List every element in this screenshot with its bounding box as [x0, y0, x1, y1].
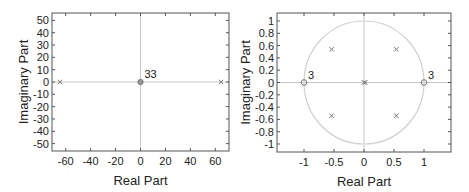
x-tick-label: 40: [184, 155, 196, 167]
y-tick-label: 0.8: [259, 27, 274, 39]
y-tick-label: 0: [43, 76, 49, 88]
y-tick-label: -50: [33, 138, 49, 150]
y-tick-label: 40: [37, 27, 49, 39]
y-tick-label: 0: [268, 77, 274, 89]
x-tick-label: -60: [58, 155, 74, 167]
y-tick-label: -1: [264, 138, 274, 150]
x-tick-label: -40: [83, 155, 99, 167]
multiplicity-label: 3: [428, 69, 434, 81]
x-tick-label: 20: [159, 155, 171, 167]
y-tick-label: 50: [37, 14, 49, 26]
y-tick-label: -0.8: [255, 126, 274, 138]
y-tick-label: 20: [37, 51, 49, 63]
x-tick-label: -0.5: [325, 156, 344, 168]
x-tick-label: -1: [299, 156, 309, 168]
right-plot: -1-0.500.5110.80.60.40.20-0.2-0.4-0.6-0.…: [238, 13, 451, 189]
y-tick-label: -10: [33, 88, 49, 100]
y-tick-label: -30: [33, 113, 49, 125]
x-tick-label: 0.5: [386, 156, 401, 168]
y-tick-label: -0.4: [255, 101, 274, 113]
y-tick-label: -0.2: [255, 89, 274, 101]
y-tick-label: 10: [37, 64, 49, 76]
zero-marker-icon: [138, 79, 143, 84]
pole-zero-figure: -60-40-20020406050403020100-10-20-30-40-…: [0, 0, 469, 192]
x-tick-label: 1: [421, 156, 427, 168]
x-tick-label: 0: [361, 156, 367, 168]
x-axis-label: Real Part: [113, 173, 168, 188]
multiplicity-label: 3: [308, 69, 314, 81]
y-tick-label: 0.6: [259, 40, 274, 52]
y-tick-label: -0.6: [255, 113, 274, 125]
pole-marker-icon: [394, 47, 398, 51]
x-tick-label: 60: [209, 155, 221, 167]
x-axis-label: Real Part: [337, 174, 392, 189]
y-axis-label: Imaginary Part: [16, 39, 31, 124]
pole-marker-icon: [329, 47, 333, 51]
y-tick-label: 1: [268, 15, 274, 27]
y-tick-label: -20: [33, 101, 49, 113]
pole-marker-icon: [329, 114, 333, 118]
x-tick-label: -20: [108, 155, 124, 167]
left-plot: -60-40-20020406050403020100-10-20-30-40-…: [16, 13, 229, 188]
y-tick-label: 30: [37, 39, 49, 51]
multiplicity-label: 33: [145, 68, 157, 80]
y-tick-label: 0.2: [259, 64, 274, 76]
y-tick-label: 0.4: [259, 52, 274, 64]
y-tick-label: -40: [33, 125, 49, 137]
x-tick-label: 0: [137, 155, 143, 167]
y-axis-label: Imaginary Part: [238, 40, 253, 125]
pole-marker-icon: [394, 114, 398, 118]
